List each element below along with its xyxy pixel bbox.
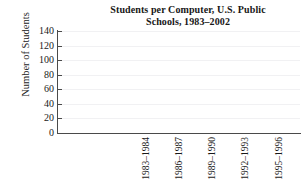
y-tick-mark — [58, 31, 62, 32]
x-tick-label: 1989–1990 — [207, 137, 217, 191]
y-tick-label: 80 — [14, 70, 54, 80]
gridline — [57, 104, 300, 105]
gridline — [57, 75, 300, 76]
y-tick-mark — [58, 104, 62, 105]
chart-title-line-1: Students per Computer, U.S. Public — [78, 4, 298, 16]
plot-area — [57, 31, 300, 133]
gridline — [57, 89, 300, 90]
y-tick-label: 20 — [14, 113, 54, 123]
y-tick-mark — [58, 89, 62, 90]
y-tick-mark — [58, 133, 62, 134]
y-tick-mark — [58, 118, 62, 119]
x-tick-label: 1995–1996 — [274, 137, 284, 191]
y-axis-tick-labels: 020406080100120140 — [13, 0, 54, 191]
y-tick-mark — [58, 46, 62, 47]
gridline — [57, 31, 300, 32]
gridline — [57, 46, 300, 47]
gridline — [57, 118, 300, 119]
y-tick-label: 120 — [14, 41, 54, 51]
chart-title: Students per Computer, U.S. Public Schoo… — [78, 4, 298, 27]
y-tick-mark — [58, 60, 62, 61]
y-tick-label: 60 — [14, 84, 54, 94]
y-tick-label: 100 — [14, 55, 54, 65]
gridline — [57, 60, 300, 61]
x-axis-line — [57, 133, 301, 134]
y-tick-label: 140 — [14, 26, 54, 36]
y-tick-mark — [58, 75, 62, 76]
chart-figure: Students per Computer, U.S. Public Schoo… — [0, 0, 307, 191]
x-tick-label: 1986–1987 — [174, 137, 184, 191]
y-tick-label: 0 — [14, 128, 54, 138]
y-tick-label: 40 — [14, 99, 54, 109]
x-tick-label: 1983–1984 — [141, 137, 151, 191]
x-tick-label: 1992–1993 — [240, 137, 250, 191]
chart-title-line-2: Schools, 1983–2002 — [78, 16, 298, 28]
